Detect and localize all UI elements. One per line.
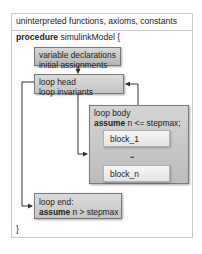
- loop-end-assume: assume n > stepmax: [39, 207, 117, 217]
- loop-body-condition: n <= stepmax;: [128, 118, 181, 128]
- assume-keyword: assume: [39, 207, 70, 217]
- closing-brace: }: [16, 224, 19, 234]
- block-1-box: block_1: [103, 130, 170, 147]
- block-n-box: block_n: [103, 165, 170, 182]
- loop-head-line1: loop head: [39, 77, 119, 87]
- loop-body-assume: assume n <= stepmax;: [94, 118, 184, 128]
- loop-end-line1: loop end:: [39, 197, 117, 207]
- block-1-label: block_1: [110, 134, 139, 144]
- loop-end-condition: n > stepmax: [73, 207, 119, 217]
- loop-head-box: loop head loop invariants: [34, 74, 124, 94]
- loop-body-line1: loop body: [94, 108, 184, 118]
- assume-keyword: assume: [94, 118, 125, 128]
- ellipsis: •••: [130, 152, 133, 162]
- loop-head-line2: loop invariants: [39, 87, 119, 97]
- var-decl-line2: initial assignments: [39, 60, 116, 70]
- var-decl-line1: variable declarations: [39, 50, 116, 60]
- block-n-label: block_n: [110, 169, 139, 179]
- variable-declarations-box: variable declarations initial assignment…: [34, 47, 121, 66]
- loop-end-box: loop end: assume n > stepmax: [34, 193, 122, 219]
